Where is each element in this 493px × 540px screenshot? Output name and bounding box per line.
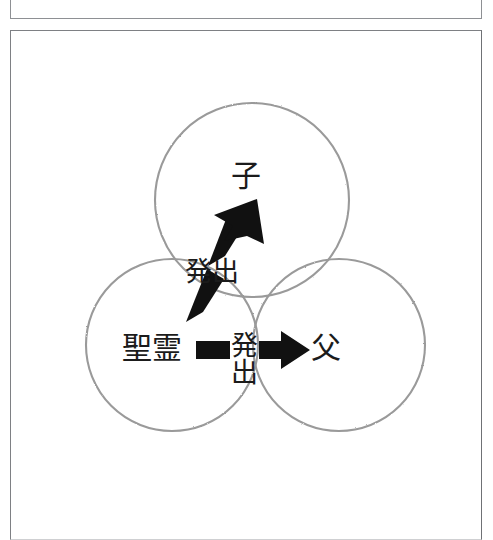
page-frame-top [10, 0, 482, 19]
page-frame-main [10, 30, 482, 540]
